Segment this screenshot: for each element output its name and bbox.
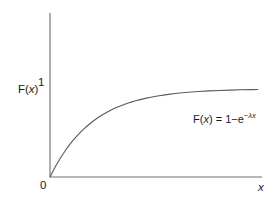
y-tick-label-1: 1	[38, 77, 44, 89]
plot-area	[0, 0, 273, 201]
origin-label: 0	[40, 180, 46, 192]
y-axis-label-prefix: F(	[18, 83, 29, 95]
exponential-cdf-figure: F(x) 1 0 x F(x) = 1−e−λx	[0, 0, 273, 201]
equation-annotation: F(x) = 1−e−λx	[193, 114, 256, 125]
equation-lhs-prefix: F(	[193, 113, 203, 125]
x-axis-label: x	[258, 182, 264, 194]
equation-exponent-variable: x	[252, 111, 256, 120]
y-axis-label: F(x)	[18, 84, 38, 96]
equation-exponent: −λx	[244, 111, 256, 120]
cdf-curve	[50, 90, 258, 178]
equation-rhs-base: 1−e	[225, 113, 244, 125]
